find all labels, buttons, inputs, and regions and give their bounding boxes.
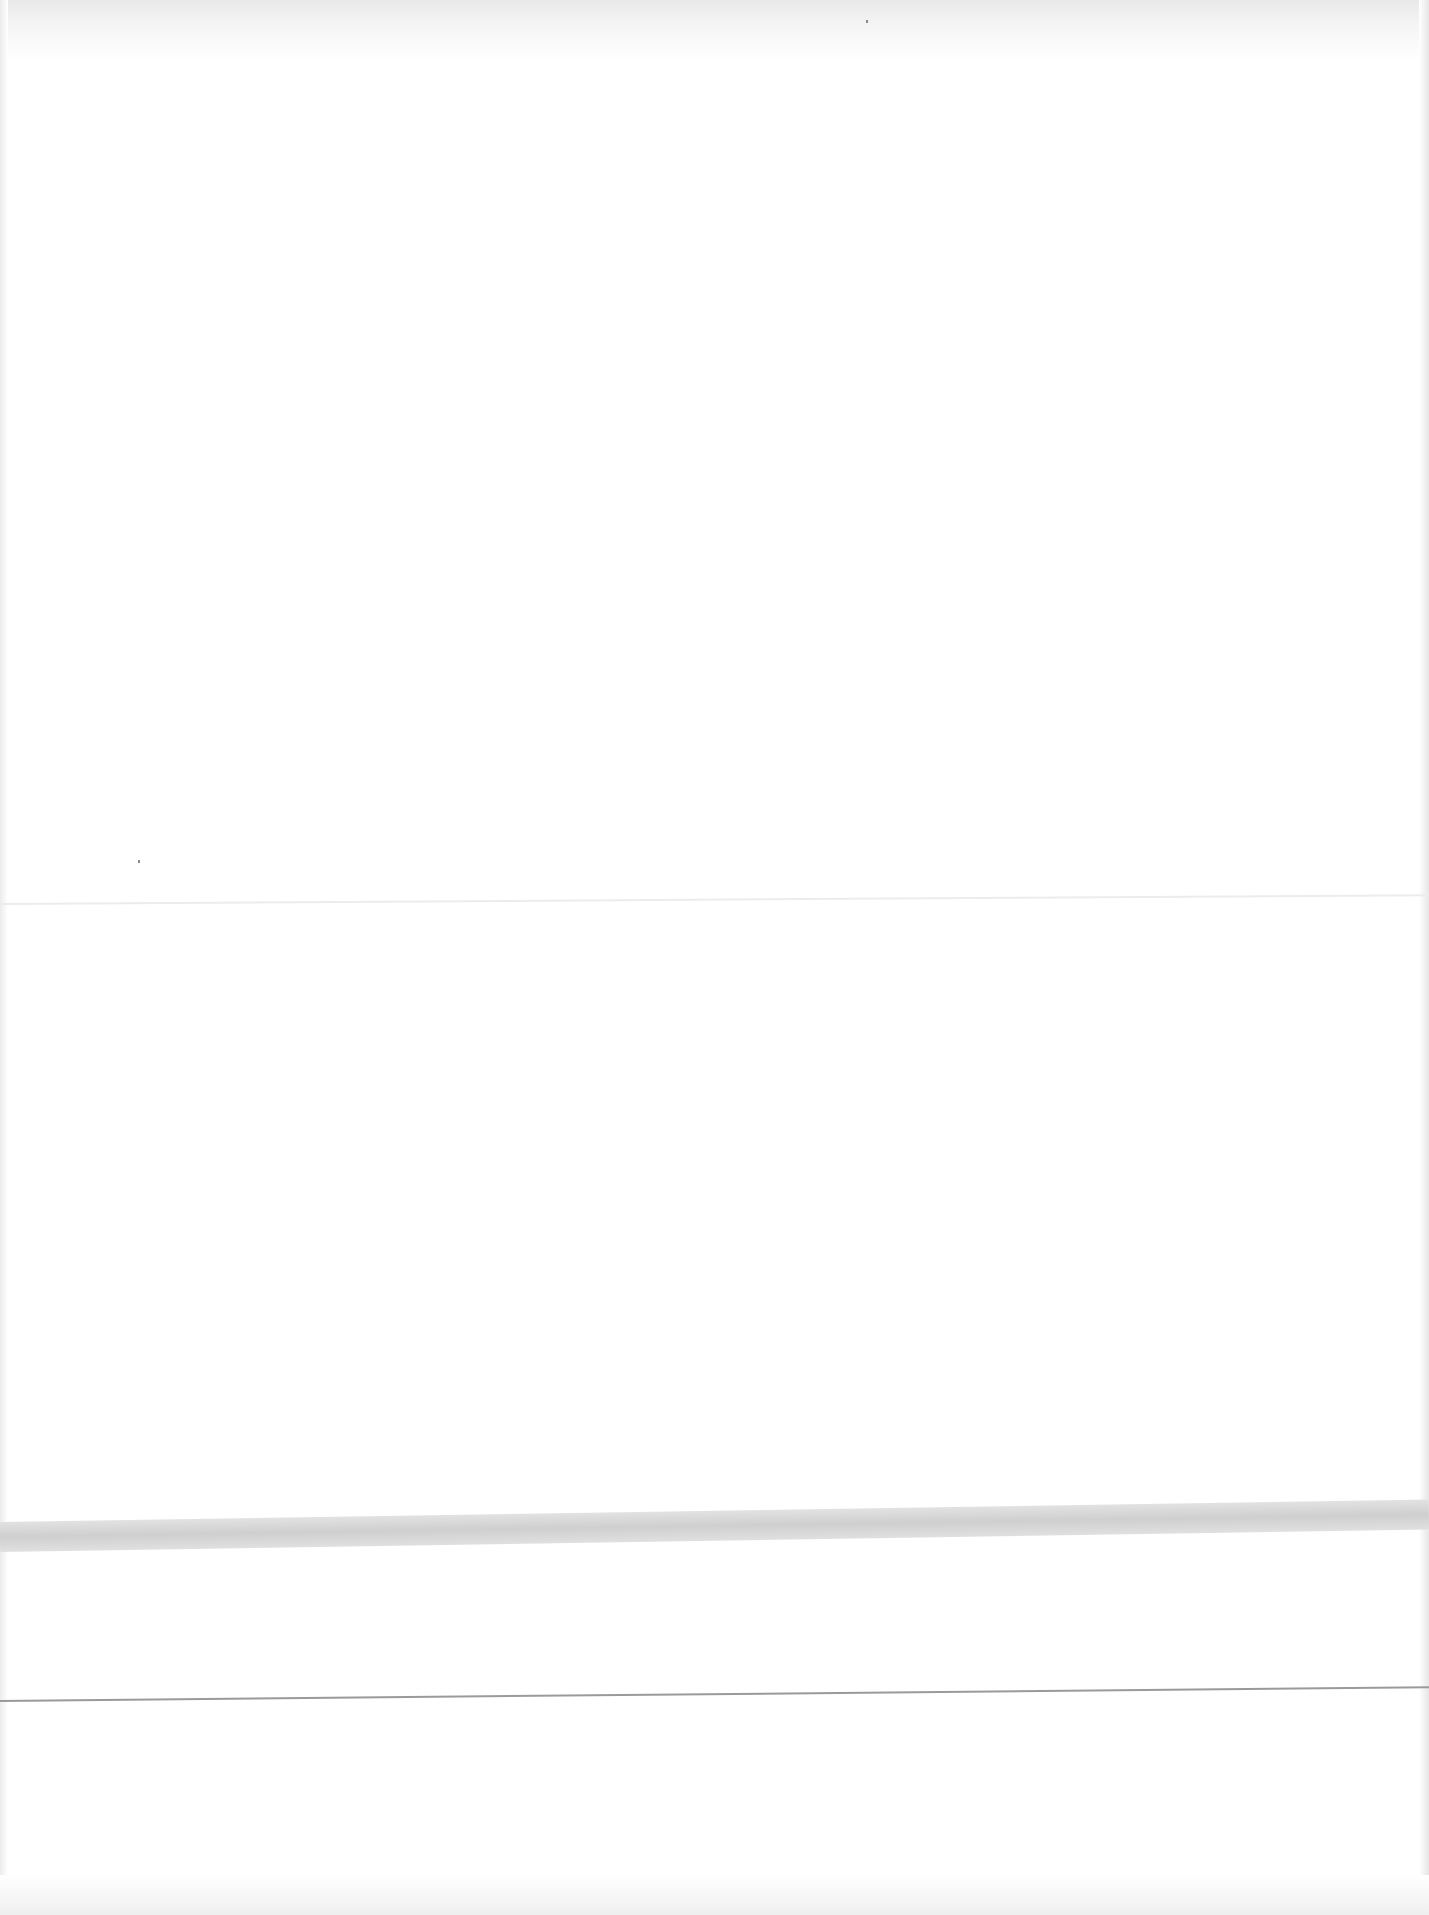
horizontal-rule — [0, 1686, 1429, 1702]
page-bottom-edge-shadow — [0, 1875, 1429, 1915]
scan-speck — [866, 20, 868, 23]
fold-line — [0, 894, 1429, 905]
blank-page — [0, 0, 1429, 1915]
page-right-edge-shadow — [1419, 0, 1429, 1915]
scan-shadow-band — [0, 1500, 1429, 1552]
scan-speck — [138, 860, 140, 863]
page-top-edge-shadow — [0, 0, 1429, 60]
page-left-edge-shadow — [0, 0, 8, 1915]
